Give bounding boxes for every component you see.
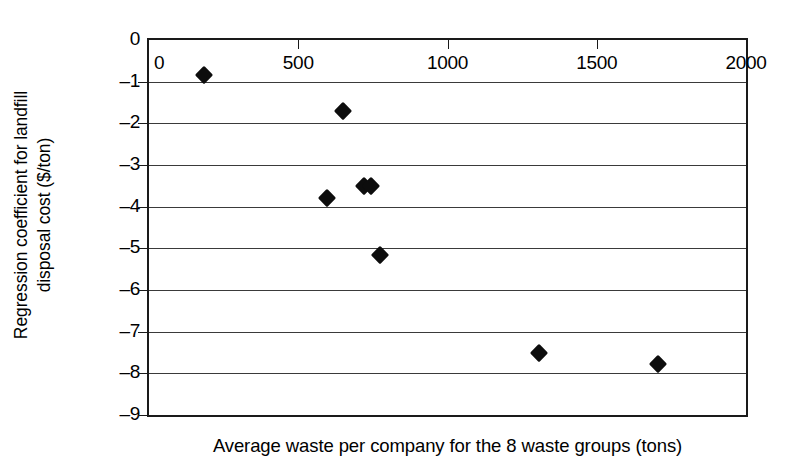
x-tick-label: 0	[154, 53, 164, 72]
y-tick-label: –2	[94, 112, 140, 131]
y-axis-title: Regression coefficient for landfill disp…	[0, 0, 66, 430]
y-tick-mark	[138, 373, 149, 374]
gridline	[149, 248, 746, 249]
gridline	[149, 373, 746, 374]
y-tick-mark	[138, 207, 149, 208]
gridline	[149, 82, 746, 83]
data-point	[649, 355, 667, 373]
y-tick-label: –8	[94, 362, 140, 381]
y-axis-tick-labels: 0–1–2–3–4–5–6–7–8–9	[60, 0, 140, 467]
y-tick-mark	[138, 165, 149, 166]
x-tick-label: 500	[283, 53, 314, 72]
gridline	[149, 332, 746, 333]
gridline	[149, 123, 746, 124]
plot-area: 0500100015002000	[147, 38, 748, 417]
x-tick-mark	[597, 40, 598, 49]
gridline	[149, 207, 746, 208]
y-tick-mark	[138, 248, 149, 249]
y-tick-mark	[138, 415, 149, 416]
y-tick-label: –1	[94, 70, 140, 89]
y-tick-label: 0	[94, 29, 140, 48]
y-tick-mark	[138, 123, 149, 124]
x-tick-label: 2000	[725, 53, 766, 72]
y-tick-label: –9	[94, 404, 140, 423]
y-tick-label: –5	[94, 237, 140, 256]
x-tick-mark	[448, 40, 449, 49]
y-tick-label: –7	[94, 320, 140, 339]
data-point	[317, 189, 335, 207]
y-axis-title-line2: disposal cost ($/ton)	[33, 91, 56, 339]
x-tick-mark	[298, 40, 299, 49]
x-axis-title: Average waste per company for the 8 wast…	[147, 435, 748, 457]
x-tick-label: 1500	[576, 53, 617, 72]
y-tick-mark	[138, 82, 149, 83]
y-tick-label: –4	[94, 195, 140, 214]
gridline	[149, 290, 746, 291]
data-point	[334, 102, 352, 120]
x-tick-label: 1000	[427, 53, 468, 72]
y-tick-mark	[138, 332, 149, 333]
y-tick-label: –6	[94, 279, 140, 298]
scatter-chart-figure: Regression coefficient for landfill disp…	[0, 0, 806, 467]
y-axis-title-line1: Regression coefficient for landfill	[11, 91, 31, 339]
y-tick-mark	[138, 290, 149, 291]
data-point	[529, 344, 547, 362]
gridline	[149, 165, 746, 166]
y-tick-label: –3	[94, 154, 140, 173]
